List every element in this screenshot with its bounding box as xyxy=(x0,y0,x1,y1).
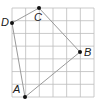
vertex-point-c xyxy=(37,6,41,10)
vertex-label-d: D xyxy=(1,17,9,28)
vertex-label-c: C xyxy=(34,12,42,23)
vertex-point-b xyxy=(78,50,82,54)
geometry-diagram: A B C D xyxy=(0,0,99,107)
vertex-point-a xyxy=(23,95,27,99)
vertex-points xyxy=(10,6,82,99)
vertex-point-d xyxy=(10,21,14,25)
vertex-label-b: B xyxy=(84,47,91,58)
quadrilateral-abcd xyxy=(12,8,80,97)
vertex-label-a: A xyxy=(13,84,20,95)
